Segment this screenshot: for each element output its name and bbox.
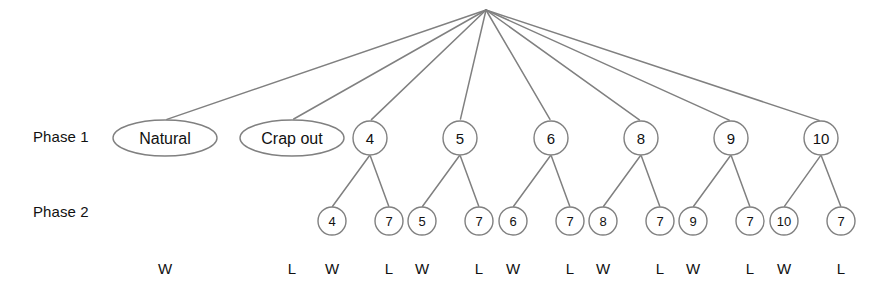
outcome-label-out-p9-win: W xyxy=(686,260,701,277)
edge-point10-to-p10-win xyxy=(785,156,821,206)
tree-graphics: NaturalCrap out4568910 4757678797107 WLW… xyxy=(0,0,883,290)
probability-tree-diagram: Phase 1 Phase 2 NaturalCrap out4568910 4… xyxy=(0,0,883,290)
outcome-label-out-p10-lose: L xyxy=(837,260,845,277)
outcome-label-out-p10-win: W xyxy=(777,260,792,277)
phase1-node-point5-label: 5 xyxy=(456,130,464,147)
edge-root-to-point8 xyxy=(486,10,639,120)
edge-point9-to-p9-lose xyxy=(731,156,749,206)
phase2-node-p5-lose-label: 7 xyxy=(475,214,482,229)
outcome-label-out-natural: W xyxy=(158,260,173,277)
edge-root-to-point6 xyxy=(486,10,550,119)
edge-point4-to-p4-win xyxy=(333,156,370,206)
root-edges-group xyxy=(167,10,819,120)
edge-point4-to-p4-lose xyxy=(370,156,388,206)
edge-root-to-point10 xyxy=(486,10,819,120)
phase1-node-natural-label: Natural xyxy=(139,130,191,147)
edge-point5-to-p5-win xyxy=(423,156,460,206)
phase2-node-p8-lose-label: 7 xyxy=(656,214,663,229)
phase2-node-p10-win-label: 10 xyxy=(777,214,791,229)
edge-point8-to-p8-win xyxy=(604,156,641,206)
outcome-label-out-p6-win: W xyxy=(506,260,521,277)
edge-point9-to-p9-win xyxy=(694,156,731,206)
outcome-label-out-p5-win: W xyxy=(415,260,430,277)
edge-root-to-point5 xyxy=(460,10,486,119)
edge-point6-to-p6-win xyxy=(514,156,551,206)
outcome-label-out-p4-lose: L xyxy=(385,260,393,277)
phase1-nodes-group: NaturalCrap out4568910 xyxy=(113,120,838,156)
edge-root-to-natural xyxy=(167,10,486,119)
edge-root-to-point9 xyxy=(486,10,729,120)
edge-point10-to-p10-lose xyxy=(821,156,840,206)
phase1-node-point9-label: 9 xyxy=(727,130,735,147)
outcome-labels-group: WLWLWLWLWLWLWL xyxy=(158,260,845,277)
phase2-node-p8-win-label: 8 xyxy=(599,214,606,229)
edge-point5-to-p5-lose xyxy=(460,156,478,206)
edge-point8-to-p8-lose xyxy=(641,156,659,206)
phase2-node-p10-lose-label: 7 xyxy=(837,214,844,229)
phase1-node-point4-label: 4 xyxy=(366,130,374,147)
phase2-nodes-group: 4757678797107 xyxy=(318,207,855,235)
outcome-label-out-p8-lose: L xyxy=(656,260,664,277)
outcome-label-out-p5-lose: L xyxy=(475,260,483,277)
phase1-node-point10-label: 10 xyxy=(813,130,830,147)
phase1-node-crapout-label: Crap out xyxy=(261,130,323,147)
phase2-edges-group xyxy=(333,156,841,206)
phase1-node-point6-label: 6 xyxy=(547,130,555,147)
outcome-label-out-p8-win: W xyxy=(596,260,611,277)
outcome-label-out-p4-win: W xyxy=(325,260,340,277)
phase2-node-p9-lose-label: 7 xyxy=(746,214,753,229)
outcome-label-out-p6-lose: L xyxy=(566,260,574,277)
phase2-node-p9-win-label: 9 xyxy=(689,214,696,229)
edge-point6-to-p6-lose xyxy=(551,156,569,206)
phase2-node-p4-win-label: 4 xyxy=(328,214,335,229)
phase2-node-p5-win-label: 5 xyxy=(418,214,425,229)
phase2-node-p4-lose-label: 7 xyxy=(385,214,392,229)
phase2-node-p6-lose-label: 7 xyxy=(566,214,573,229)
phase1-node-point8-label: 8 xyxy=(637,130,645,147)
phase2-node-p6-win-label: 6 xyxy=(509,214,516,229)
outcome-label-out-p9-lose: L xyxy=(746,260,754,277)
outcome-label-out-crapout: L xyxy=(288,260,296,277)
